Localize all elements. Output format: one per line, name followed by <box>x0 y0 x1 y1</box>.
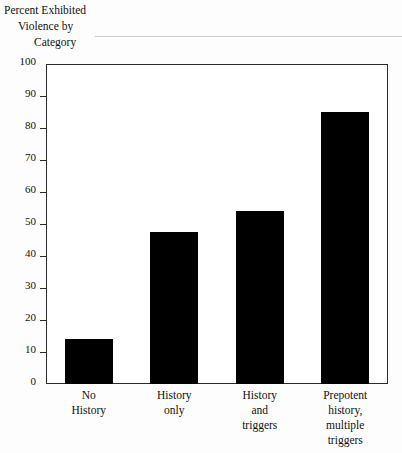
y-axis-tick-label: 20 <box>25 312 36 323</box>
bar-4 <box>321 112 369 384</box>
y-axis-tick-label: 10 <box>25 344 36 355</box>
y-axis-tick-label: 90 <box>25 88 36 99</box>
bar-1 <box>65 339 113 384</box>
bar-series <box>46 64 388 384</box>
x-axis-label-1: NoHistory <box>46 388 132 418</box>
chart-figure: Percent Exhibited Violence by Category 0… <box>0 0 402 453</box>
y-axis-tick-label: 60 <box>25 184 36 195</box>
chart-title-line-2: Violence by <box>4 18 264 34</box>
y-axis-tick-label: 40 <box>25 248 36 259</box>
x-axis-label-line: Prepotent <box>303 388 389 403</box>
x-axis-label-line: history, <box>303 403 389 418</box>
x-axis-category-labels: NoHistoryHistoryonlyHistoryandtriggersPr… <box>46 388 388 453</box>
chart-title-line-1: Percent Exhibited <box>4 2 264 18</box>
x-axis-label-line: No <box>46 388 132 403</box>
y-axis-tick-label: 30 <box>25 280 36 291</box>
y-axis-tick-label: 70 <box>25 152 36 163</box>
x-axis-label-line: and <box>217 403 303 418</box>
y-axis-tick-label: 100 <box>20 56 37 67</box>
x-axis-label-3: Historyandtriggers <box>217 388 303 433</box>
x-axis-label-line: History <box>217 388 303 403</box>
y-axis: 0102030405060708090100 <box>0 56 46 392</box>
x-axis-label-line: History <box>132 388 218 403</box>
x-axis-label-line: multiple <box>303 418 389 433</box>
x-axis-label-line: triggers <box>303 433 389 448</box>
x-axis-label-line: triggers <box>217 418 303 433</box>
x-axis-label-line: History <box>46 403 132 418</box>
x-axis-label-2: Historyonly <box>132 388 218 418</box>
x-axis-label-line: only <box>132 403 218 418</box>
x-axis-label-4: Prepotenthistory,multipletriggers <box>303 388 389 448</box>
chart-title-line-3: Category <box>4 34 264 50</box>
y-axis-tick-label: 0 <box>31 376 37 387</box>
chart-title: Percent Exhibited Violence by Category <box>4 2 264 50</box>
bar-2 <box>150 232 198 384</box>
y-axis-tick-label: 50 <box>25 216 36 227</box>
bar-3 <box>236 211 284 384</box>
y-axis-tick-label: 80 <box>25 120 36 131</box>
